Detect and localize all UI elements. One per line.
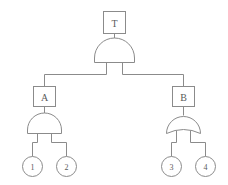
basic-event-label: 4 [204,163,208,172]
top-event-label: T [111,18,117,29]
gate-a-and[interactable] [28,113,62,134]
and-gate-shape[interactable] [28,113,62,134]
basic-event-4[interactable]: 4 [196,157,216,177]
fault-tree-canvas: T A [0,0,228,185]
fault-tree-diagram: T A [0,0,228,185]
gate-b-or[interactable] [167,117,201,134]
intermediate-event-b[interactable]: B [173,87,195,107]
and-gate-shape[interactable] [95,38,135,63]
event-a-label: A [41,92,49,103]
or-gate-shape[interactable] [167,117,201,134]
basic-event-2[interactable]: 2 [57,157,77,177]
basic-event-label: 2 [65,163,69,172]
event-b-label: B [180,92,187,103]
intermediate-event-a[interactable]: A [34,87,56,107]
basic-event-label: 3 [170,163,174,172]
basic-event-1[interactable]: 1 [23,157,43,177]
basic-event-label: 1 [31,163,35,172]
basic-event-3[interactable]: 3 [162,157,182,177]
top-event-node[interactable]: T [104,12,126,34]
gate-top-and[interactable] [95,38,135,63]
